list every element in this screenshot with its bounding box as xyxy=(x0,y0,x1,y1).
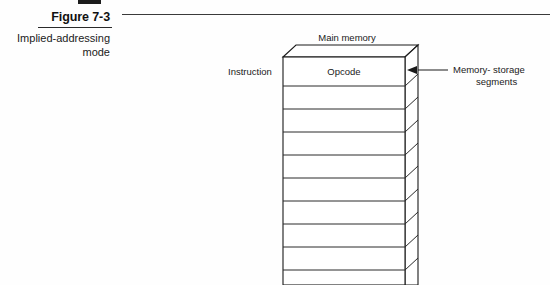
opcode-label: Opcode xyxy=(327,66,360,77)
main-memory-title: Main memory xyxy=(318,32,376,43)
memory-block-side-face xyxy=(405,45,418,285)
memory-storage-segments-label-line1: Memory- storage xyxy=(453,64,525,75)
main-memory-diagram: Main memory xyxy=(0,0,550,285)
instruction-label: Instruction xyxy=(228,66,272,77)
memory-block-top-face xyxy=(283,45,418,57)
memory-storage-segments-label-line2: segments xyxy=(476,76,517,87)
memory-block-front-face xyxy=(283,57,405,285)
memory-block-svg: Main memory xyxy=(0,0,550,285)
figure-page: Figure 7-3 Implied-addressing mode Main … xyxy=(0,0,550,285)
